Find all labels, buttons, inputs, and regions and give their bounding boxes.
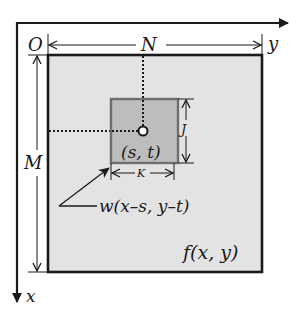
x-axis-label: x [26, 286, 36, 306]
spatial-filtering-diagram: O N y M x J K (s, t) w(x–s, y–t) f(x, y) [0, 0, 296, 316]
image-label: f(x, y) [181, 241, 238, 263]
center-point [139, 127, 148, 136]
center-label: (s, t) [121, 142, 161, 162]
window-width-label: K [136, 167, 146, 180]
y-axis-label: y [267, 33, 279, 54]
width-label: N [140, 34, 158, 55]
mask-label: w(x–s, y–t) [99, 196, 189, 216]
origin-label: O [28, 34, 43, 55]
height-label: M [23, 152, 43, 173]
